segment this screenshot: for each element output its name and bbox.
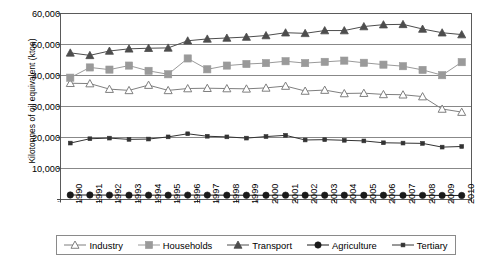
x-tick-label: 1991 — [94, 183, 104, 203]
filled-square-icon — [138, 240, 160, 250]
x-tick-label: 2001 — [290, 183, 300, 203]
legend-item-tertiary[interactable]: Tertiary — [392, 240, 448, 251]
x-tick-label: 1994 — [153, 183, 163, 203]
legend-item-households[interactable]: Households — [138, 240, 213, 251]
filled-circle-icon — [307, 240, 329, 250]
chart-legend: IndustryHouseholdsTransportAgricultureTe… — [56, 235, 456, 255]
x-tick-label: 1998 — [231, 183, 241, 203]
legend-label: Transport — [252, 240, 292, 251]
legend-label: Agriculture — [332, 240, 377, 251]
small-square-icon — [392, 240, 414, 250]
x-tick-label: 2006 — [387, 183, 397, 203]
x-tick-label: 2010 — [466, 183, 476, 203]
x-tick-label: 1993 — [133, 183, 143, 203]
x-tick-label: 1990 — [74, 183, 84, 203]
x-tick-label: 1999 — [250, 183, 260, 203]
x-tick-label: 2005 — [368, 183, 378, 203]
legend-label: Tertiary — [417, 240, 448, 251]
legend-label: Households — [163, 240, 213, 251]
series-agriculture — [67, 192, 465, 199]
x-tick-label: 2002 — [309, 183, 319, 203]
energy-consumption-line-chart: Kilotonnes of oil equivalent (ktoe) -10,… — [0, 0, 490, 263]
x-tick-label: 2004 — [348, 183, 358, 203]
x-tick-label: 1996 — [192, 183, 202, 203]
filled-triangle-icon — [227, 240, 249, 250]
x-tick-label: 1997 — [211, 183, 221, 203]
legend-item-agriculture[interactable]: Agriculture — [307, 240, 377, 251]
x-tick-label: 2003 — [329, 183, 339, 203]
x-tick-label: 2000 — [270, 183, 280, 203]
plot-area — [0, 0, 490, 263]
legend-label: Industry — [89, 240, 122, 251]
x-tick-label: 2009 — [446, 183, 456, 203]
x-tick-label: 2008 — [427, 183, 437, 203]
legend-item-industry[interactable]: Industry — [64, 240, 122, 251]
open-triangle-icon — [64, 240, 86, 250]
x-tick-label: 2007 — [407, 183, 417, 203]
legend-item-transport[interactable]: Transport — [227, 240, 292, 251]
x-tick-label: 1995 — [172, 183, 182, 203]
x-tick-label: 1992 — [113, 183, 123, 203]
